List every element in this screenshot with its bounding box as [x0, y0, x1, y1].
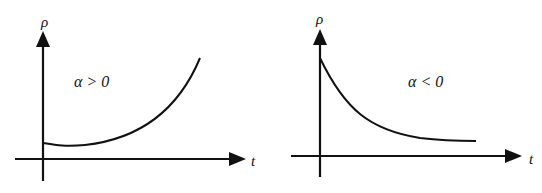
x-axis-label: t [529, 151, 534, 167]
diagram-svg: ρ t α > 0 ρ t α < 0 [0, 0, 542, 193]
panel-alpha-negative: ρ t α < 0 [291, 11, 534, 177]
panel-alpha-positive: ρ t α > 0 [15, 14, 256, 181]
y-axis-label: ρ [40, 14, 48, 30]
annotation-label: α < 0 [408, 73, 443, 90]
diagram-canvas: ρ t α > 0 ρ t α < 0 [0, 0, 542, 193]
x-axis-label: t [251, 153, 256, 169]
growth-curve [43, 58, 200, 146]
x-axis-arrow-icon [229, 152, 246, 166]
x-axis-arrow-icon [505, 149, 522, 163]
y-axis-label: ρ [315, 11, 323, 27]
decay-curve [320, 58, 476, 141]
y-axis-arrow-icon [36, 31, 50, 47]
y-axis-arrow-icon [313, 29, 327, 45]
annotation-label: α > 0 [74, 73, 109, 90]
